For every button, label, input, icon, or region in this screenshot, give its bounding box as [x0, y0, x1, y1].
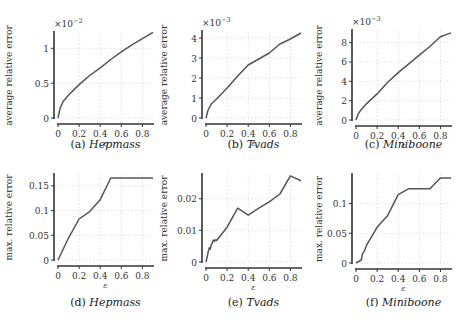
svg-text:0.1: 0.1: [35, 206, 49, 216]
svg-text:0.8: 0.8: [135, 271, 150, 281]
chart-caption-f: (f) Miniboone: [329, 296, 468, 309]
svg-text:average relative error: average relative error: [4, 24, 14, 125]
caption-label: (d): [70, 296, 89, 309]
chart-caption-e: (e) Tvads: [179, 296, 329, 309]
svg-text:2: 2: [341, 96, 347, 106]
caption-label: (f): [366, 296, 382, 309]
svg-text:4: 4: [341, 77, 347, 87]
svg-text:0.5: 0.5: [35, 79, 50, 89]
data-series-line: [356, 33, 451, 120]
data-series-line: [58, 32, 153, 118]
chart-caption-b: (b) Tvads: [179, 138, 329, 151]
svg-text:0.05: 0.05: [29, 231, 49, 241]
svg-text:0.2: 0.2: [220, 273, 234, 283]
svg-text:×10−3: ×10−3: [202, 16, 231, 28]
data-series-line: [206, 176, 301, 262]
svg-text:0.05: 0.05: [327, 229, 347, 239]
svg-text:8: 8: [341, 38, 347, 48]
svg-text:3: 3: [191, 54, 197, 64]
svg-text:0.2: 0.2: [72, 271, 86, 281]
svg-text:0: 0: [43, 256, 49, 266]
svg-text:0: 0: [191, 114, 197, 124]
svg-text:4: 4: [191, 34, 197, 44]
svg-text:1: 1: [191, 94, 197, 104]
svg-text:0.15: 0.15: [29, 181, 49, 191]
chart-caption-c: (c) Miniboone: [329, 138, 468, 151]
svg-text:max. relative error: max. relative error: [159, 175, 169, 262]
svg-text:ε: ε: [401, 284, 405, 293]
svg-text:max. relative error: max. relative error: [314, 175, 324, 262]
svg-text:0.4: 0.4: [391, 274, 406, 284]
svg-text:0.8: 0.8: [433, 274, 448, 284]
data-series-line: [58, 178, 153, 260]
data-series-line: [206, 33, 301, 118]
caption-label: (b): [228, 138, 247, 151]
svg-text:0.01: 0.01: [177, 226, 197, 236]
svg-text:6: 6: [341, 57, 347, 67]
svg-text:0.02: 0.02: [177, 194, 197, 204]
svg-text:0.8: 0.8: [283, 273, 298, 283]
svg-text:0: 0: [353, 274, 359, 284]
svg-text:average relative error: average relative error: [314, 24, 324, 125]
caption-dataset-name: Tvads: [247, 138, 280, 151]
caption-label: (a): [70, 138, 89, 151]
caption-dataset-name: Tvads: [246, 296, 279, 309]
svg-text:0: 0: [341, 259, 347, 269]
svg-text:average relative error: average relative error: [159, 24, 169, 125]
caption-dataset-name: Miniboone: [382, 296, 441, 309]
svg-text:×10−2: ×10−2: [54, 17, 83, 29]
svg-text:0: 0: [55, 271, 61, 281]
caption-label: (c): [365, 138, 383, 151]
svg-text:0: 0: [43, 114, 49, 124]
svg-text:0.1: 0.1: [333, 199, 347, 209]
svg-text:×10−3: ×10−3: [352, 15, 381, 27]
svg-text:0.4: 0.4: [93, 271, 108, 281]
svg-text:0.4: 0.4: [241, 273, 256, 283]
caption-dataset-name: Miniboone: [383, 138, 442, 151]
svg-text:0: 0: [203, 273, 209, 283]
svg-text:0: 0: [341, 116, 347, 126]
data-series-line: [356, 178, 451, 263]
svg-text:1: 1: [43, 44, 49, 54]
caption-dataset-name: Hepmass: [89, 296, 140, 309]
svg-text:0: 0: [191, 258, 197, 268]
svg-text:0.6: 0.6: [412, 274, 427, 284]
svg-text:max. relative error: max. relative error: [4, 174, 14, 261]
svg-text:0.2: 0.2: [370, 274, 384, 284]
svg-text:ε: ε: [251, 283, 255, 292]
caption-dataset-name: Hepmass: [89, 138, 140, 151]
svg-text:0.6: 0.6: [262, 273, 277, 283]
svg-text:ε: ε: [103, 281, 107, 290]
svg-text:2: 2: [191, 74, 197, 84]
svg-text:0.6: 0.6: [114, 271, 129, 281]
caption-label: (e): [228, 296, 247, 309]
